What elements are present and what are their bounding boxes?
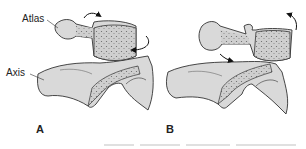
axis-label: Axis (6, 67, 25, 78)
axis-vertebra (37, 56, 153, 110)
caption-remnant (104, 144, 296, 146)
panel-b: B (166, 14, 297, 135)
panel-label-b: B (166, 123, 174, 135)
displacement-arrow-b (220, 54, 232, 61)
atlas-label: Atlas (22, 13, 44, 24)
panel-label-a: A (36, 123, 44, 135)
atlas-axis-diagram: Atlas Axis A B (0, 0, 306, 149)
rotation-arrow-b-top (288, 14, 297, 30)
panel-a: Atlas Axis A (6, 13, 153, 135)
rotation-arrow-top (84, 13, 100, 18)
